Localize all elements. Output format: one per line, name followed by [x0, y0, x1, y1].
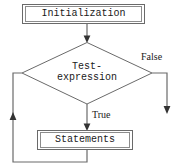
- edge-label-false: False: [141, 52, 162, 62]
- edge-false-line: [152, 73, 167, 108]
- edge-true-arrowhead: [84, 124, 91, 132]
- edge-false-arrowhead: [164, 106, 171, 114]
- edge-init-to-test-arrowhead: [84, 36, 91, 44]
- edge-label-true: True: [92, 110, 111, 120]
- initialization-label: Initialization: [22, 8, 145, 19]
- flowchart-diagram: Initialization Test-expression Statement…: [0, 0, 177, 167]
- test-expression-label: Test-expression: [37, 61, 137, 83]
- test-expression-label-line2: expression: [37, 72, 137, 83]
- test-expression-label-line1: Test-: [72, 61, 102, 72]
- statements-label: Statements: [37, 134, 133, 145]
- edge-loop-back-arrowhead: [10, 112, 17, 120]
